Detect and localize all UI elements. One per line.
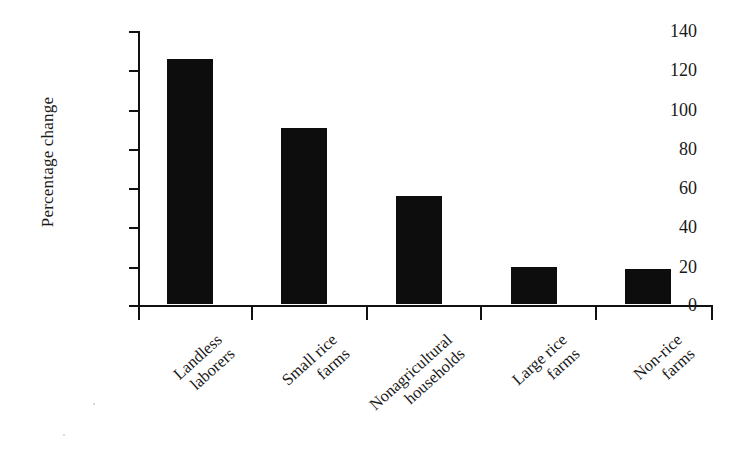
- y-tick-60: [129, 188, 139, 190]
- y-tick-40: [129, 227, 139, 229]
- x-tick-3: [480, 307, 482, 320]
- x-tick-0: [138, 307, 140, 320]
- x-tick-5: [711, 307, 713, 320]
- x-tick-1: [251, 307, 253, 320]
- y-tick-20: [129, 267, 139, 269]
- y-tick-label-120: 120: [637, 61, 697, 79]
- bar-chart-figure: Percentage change 140 120 100 80 60 40 2…: [0, 0, 748, 458]
- scan-speckle: [93, 403, 95, 405]
- bar-small-rice-farms: [281, 128, 327, 304]
- y-tick-140: [129, 31, 139, 33]
- x-label-line-1: Landless: [94, 330, 226, 451]
- y-tick-label-40: 40: [637, 218, 697, 236]
- y-tick-label-100: 100: [637, 101, 697, 119]
- y-tick-label-140: 140: [637, 22, 697, 40]
- y-tick-100: [129, 110, 139, 112]
- x-label-line-2: farms: [567, 344, 699, 458]
- y-axis-line: [138, 31, 140, 307]
- x-tick-2: [366, 307, 368, 320]
- bar-nonagricultural-households: [396, 196, 442, 304]
- bar-large-rice-farms: [511, 267, 557, 304]
- y-tick-label-80: 80: [637, 140, 697, 158]
- x-axis-line: [138, 305, 713, 307]
- y-tick-label-60: 60: [637, 179, 697, 197]
- y-axis-title: Percentage change: [38, 52, 58, 272]
- y-tick-80: [129, 149, 139, 151]
- bar-non-rice-farms: [625, 269, 671, 304]
- x-tick-4: [595, 307, 597, 320]
- bar-landless-laborers: [167, 59, 213, 304]
- scan-speckle: [63, 434, 65, 436]
- y-tick-120: [129, 70, 139, 72]
- plot-area: 140 120 100 80 60 40 20 0: [138, 31, 713, 306]
